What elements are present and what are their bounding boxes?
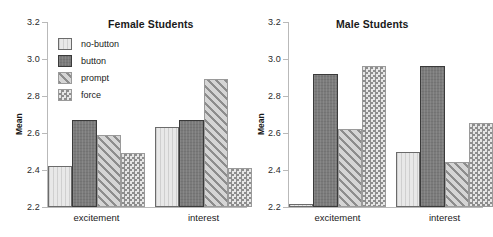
panel-title-male: Male Students	[336, 18, 408, 30]
y-tick-label: 2.6	[18, 128, 40, 138]
y-axis-line-male	[288, 22, 289, 207]
bar-interest-button	[420, 66, 444, 207]
bar-interest-force	[469, 123, 493, 207]
y-tick-label: 3.0	[18, 54, 40, 64]
legend-item-button: button	[58, 53, 119, 68]
y-tick-label: 3.2	[18, 17, 40, 27]
y-tick-label: 2.4	[259, 165, 281, 175]
y-tick-label: 2.4	[18, 165, 40, 175]
bar-excitement-prompt	[338, 129, 362, 207]
legend-item-prompt: prompt	[58, 70, 119, 85]
legend-label: no-button	[81, 39, 119, 49]
y-tick-mark	[42, 170, 47, 171]
legend-swatch-icon-button	[58, 55, 72, 67]
legend-swatch-icon-force	[58, 89, 72, 101]
bar-excitement-no-button	[289, 204, 313, 207]
x-axis-line-female	[47, 207, 247, 208]
legend-label: force	[81, 90, 101, 100]
y-tick-mark	[42, 96, 47, 97]
y-tick-mark	[283, 96, 288, 97]
bar-excitement-button	[313, 74, 337, 207]
y-tick-label: 3.2	[259, 17, 281, 27]
bar-excitement-force	[362, 66, 386, 207]
y-tick-mark	[42, 59, 47, 60]
y-tick-label: 3.0	[259, 54, 281, 64]
y-tick-mark	[283, 22, 288, 23]
bar-interest-force	[228, 168, 252, 207]
chart-legend: no-buttonbuttonpromptforce	[58, 36, 119, 104]
bar-excitement-force	[121, 153, 145, 207]
legend-label: button	[81, 56, 106, 66]
x-group-label-excitement: excitement	[74, 212, 120, 223]
bar-excitement-button	[72, 120, 96, 207]
legend-label: prompt	[81, 73, 109, 83]
bar-interest-prompt	[204, 79, 228, 207]
bar-interest-no-button	[396, 152, 420, 208]
bar-interest-prompt	[445, 162, 469, 207]
y-tick-mark	[283, 207, 288, 208]
legend-item-force: force	[58, 87, 119, 102]
y-tick-label: 2.8	[18, 91, 40, 101]
bar-interest-button	[179, 120, 203, 207]
y-tick-label: 2.6	[259, 128, 281, 138]
panel-female-students: Female Students Mean 2.22.42.62.83.03.2 …	[0, 0, 248, 237]
x-group-label-excitement: excitement	[315, 212, 361, 223]
panel-title-female: Female Students	[108, 18, 194, 30]
x-group-label-interest: interest	[429, 212, 460, 223]
legend-swatch-icon-no-button	[58, 38, 72, 50]
legend-item-no-button: no-button	[58, 36, 119, 51]
y-tick-mark	[42, 133, 47, 134]
legend-swatch-icon-prompt	[58, 72, 72, 84]
y-tick-label: 2.2	[18, 202, 40, 212]
x-axis-line-male	[288, 207, 483, 208]
bar-interest-no-button	[155, 127, 179, 207]
y-tick-mark	[283, 170, 288, 171]
x-group-label-interest: interest	[188, 212, 219, 223]
panel-male-students: Male Students Mean 2.22.42.62.83.03.2 ex…	[248, 0, 483, 237]
y-tick-mark	[283, 59, 288, 60]
y-tick-mark	[42, 22, 47, 23]
y-tick-mark	[42, 207, 47, 208]
bar-excitement-prompt	[97, 135, 121, 207]
y-tick-label: 2.2	[259, 202, 281, 212]
y-tick-label: 2.8	[259, 91, 281, 101]
bar-excitement-no-button	[48, 166, 72, 207]
y-tick-mark	[283, 133, 288, 134]
